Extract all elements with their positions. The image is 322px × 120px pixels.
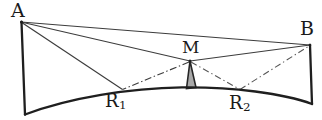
vertex-label-r2-subscript: 2 — [243, 100, 251, 114]
ray-m-to-r1 — [123, 62, 190, 90]
vertex-dot-b — [309, 44, 312, 47]
vertex-label-m: M — [182, 39, 199, 56]
right-wall-edge — [310, 45, 312, 104]
left-wall-edge — [22, 22, 26, 115]
vertex-label-r1-subscript: 1 — [119, 98, 127, 112]
ray-a-to-r1 — [21, 22, 123, 90]
ray-a-to-m — [21, 22, 190, 61]
vertex-label-r2: R2 — [229, 94, 250, 112]
ray-a-to-b — [21, 22, 310, 45]
vertex-label-a: A — [11, 1, 25, 20]
geometry-figure: A B M R1 R2 — [0, 0, 322, 120]
figure-canvas — [0, 0, 322, 120]
curved-base-arc — [25, 87, 312, 114]
vertex-dot-m — [189, 60, 192, 63]
ray-m-to-r2 — [191, 62, 240, 90]
ray-m-to-b — [190, 45, 310, 61]
shaded-spike-region — [187, 61, 197, 89]
vertex-label-r2-base: R — [229, 92, 243, 113]
vertex-label-r1: R1 — [105, 92, 126, 110]
vertex-label-b: B — [300, 19, 314, 38]
vertex-label-r1-base: R — [105, 90, 119, 111]
